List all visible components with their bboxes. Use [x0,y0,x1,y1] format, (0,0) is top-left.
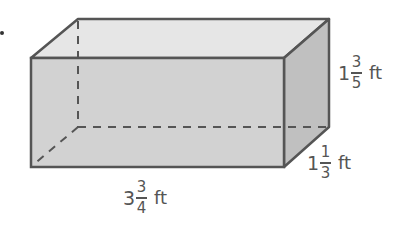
width-numerator: 1 [321,145,331,160]
height-numerator: 3 [352,55,362,70]
front-face [31,58,284,167]
width-denominator: 3 [321,166,331,181]
height-unit: ft [369,62,382,83]
height-label: 1 3 5 ft [338,55,382,91]
width-whole: 1 [307,152,319,174]
height-denominator: 5 [352,76,362,91]
width-label: 1 1 3 ft [307,145,351,181]
height-whole: 1 [338,62,350,84]
length-denominator: 4 [137,201,147,216]
length-label: 3 3 4 ft [123,180,167,216]
length-numerator: 3 [137,180,147,195]
length-fraction: 3 4 [136,180,147,216]
width-fraction: 1 3 [320,145,331,181]
top-face [31,19,329,58]
height-fraction: 3 5 [351,55,362,91]
rectangular-prism-diagram [0,0,417,235]
length-unit: ft [154,187,167,208]
width-unit: ft [338,152,351,173]
length-whole: 3 [123,187,135,209]
